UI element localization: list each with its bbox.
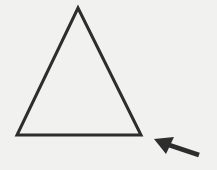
diagram-canvas [0,0,217,170]
triangle-shape [17,8,141,135]
arrow-icon [154,137,199,155]
diagram-svg [0,0,217,170]
